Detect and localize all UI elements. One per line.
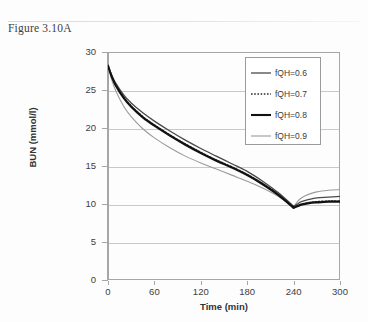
y-tick-label: 15	[36, 160, 96, 171]
legend-line-swatch-icon	[250, 131, 272, 141]
legend-label: fQH=0.6	[275, 68, 307, 78]
y-tick	[102, 204, 107, 205]
x-tick-label: 120	[181, 286, 221, 297]
y-tick-label: 30	[36, 46, 96, 57]
x-tick	[154, 281, 155, 285]
x-tick	[340, 281, 341, 285]
legend-item[interactable]: fQH=0.6	[246, 62, 320, 83]
chart-legend: fQH=0.6fQH=0.7fQH=0.8fQH=0.9	[245, 57, 321, 145]
x-tick	[108, 281, 109, 285]
y-tick-label: 5	[36, 236, 96, 247]
y-tick	[102, 128, 107, 129]
y-tick-label: 0	[36, 274, 96, 285]
legend-item[interactable]: fQH=0.9	[246, 125, 320, 146]
x-tick-label: 60	[134, 286, 174, 297]
y-tick	[102, 166, 107, 167]
figure-caption: Figure 3.10A	[8, 22, 72, 34]
legend-item[interactable]: fQH=0.7	[246, 83, 320, 104]
legend-line-swatch-icon	[250, 110, 272, 120]
x-tick	[201, 281, 202, 285]
y-tick	[102, 90, 107, 91]
legend-line-swatch-icon	[250, 68, 272, 78]
legend-line-swatch-icon	[250, 89, 272, 99]
scanned-page: Figure 3.10A BUN (mmol/l) 051015202530 0…	[0, 0, 368, 322]
y-tick	[102, 280, 107, 281]
y-axis-title: BUN (mmol/l)	[27, 78, 38, 198]
legend-item[interactable]: fQH=0.8	[246, 104, 320, 125]
x-tick	[294, 281, 295, 285]
x-tick-label: 0	[88, 286, 128, 297]
chart-figure: BUN (mmol/l) 051015202530 06012018024030…	[0, 40, 368, 322]
x-tick-label: 300	[320, 286, 360, 297]
legend-label: fQH=0.8	[275, 110, 307, 120]
legend-label: fQH=0.7	[275, 89, 307, 99]
y-tick	[102, 242, 107, 243]
x-axis-title: Time (min)	[108, 301, 340, 312]
x-tick-label: 180	[227, 286, 267, 297]
y-tick-label: 25	[36, 84, 96, 95]
y-tick	[102, 52, 107, 53]
y-tick-label: 20	[36, 122, 96, 133]
legend-label: fQH=0.9	[275, 131, 307, 141]
x-tick-label: 240	[274, 286, 314, 297]
x-tick	[247, 281, 248, 285]
y-tick-label: 10	[36, 198, 96, 209]
